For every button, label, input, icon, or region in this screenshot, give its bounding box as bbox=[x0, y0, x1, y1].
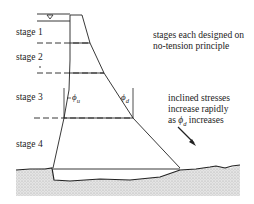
water-level-icon bbox=[47, 15, 53, 19]
arrow-head-icon bbox=[189, 139, 196, 146]
upstream-face-lower bbox=[53, 60, 70, 168]
stage-1-label: stage 1 bbox=[16, 27, 43, 38]
design-note: stages each designed on no-tension princ… bbox=[153, 30, 253, 52]
upstream-angle-label: ϕu bbox=[72, 92, 80, 104]
dam-stages-diagram: stage 1 stage 2 stage 3 stage 4 ϕu ϕd st… bbox=[0, 0, 254, 204]
stage-3-label: stage 3 bbox=[16, 92, 43, 103]
stage-4-label: stage 4 bbox=[16, 139, 43, 150]
stress-note: inclined stresses increase rapidly as ϕd… bbox=[168, 93, 254, 129]
downstream-angle-label: ϕd bbox=[121, 92, 129, 104]
stage-2-label: stage 2 bbox=[16, 52, 43, 63]
